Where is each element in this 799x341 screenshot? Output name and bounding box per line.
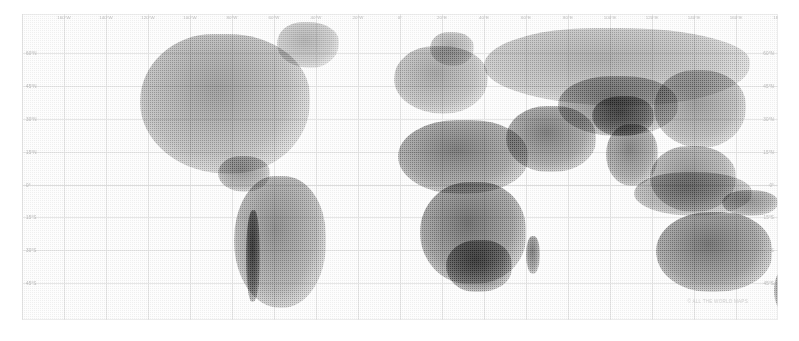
longitude-label: 160°E [730,15,743,20]
longitude-label: 40°E [479,15,489,20]
landmass-madagascar [526,236,540,274]
latitude-label: 60°N [26,51,37,56]
landmass-fill [246,210,260,302]
latitude-label: 60°N [763,51,774,56]
latitude-label: 0° [769,182,774,187]
latitude-label: 30°N [763,116,774,121]
latitude-label: 30°S [764,248,774,253]
landmass-fill [656,212,772,292]
longitude-label: 20°E [437,15,447,20]
world-map[interactable]: 160°W140°W120°W100°W80°W60°W40°W20°W0°20… [22,14,778,320]
latitude-label: 15°S [26,215,36,220]
landmass-scandinavia [430,32,474,66]
longitude-label: 40°W [310,15,321,20]
landmass-fill [446,240,512,292]
landmass-andes-ridge [246,210,260,302]
copyright-watermark: © ALL THE WORLD MAPS [688,299,748,304]
landmass-australia [656,212,772,292]
landmass-fill [654,70,746,148]
latitude-label: 15°N [763,149,774,154]
latitude-label: 45°S [26,280,36,285]
latitude-label: 45°N [763,84,774,89]
longitude-label: 60°W [268,15,279,20]
longitude-label: 100°E [604,15,617,20]
latitude-labels-left: 60°N45°N30°N15°N0°15°S30°S45°S [22,14,44,320]
longitude-label: 160°W [57,15,71,20]
landmass-layer [22,14,778,320]
longitude-label: 120°E [646,15,659,20]
latitude-label: 30°S [26,248,36,253]
landmass-southern-africa [446,240,512,292]
latitude-label: 30°N [26,116,37,121]
longitude-label: 0° [398,15,402,20]
longitude-label: 80°E [563,15,573,20]
longitude-label: 80°W [226,15,237,20]
latitude-label: 15°N [26,149,37,154]
latitude-labels-right: 60°N45°N30°N15°N0°15°S30°S45°S [756,14,778,320]
longitude-label: 140°E [688,15,701,20]
landmass-east-asia [654,70,746,148]
longitude-label: 20°W [352,15,363,20]
latitude-label: 15°S [764,215,774,220]
landmass-greenland [277,22,339,68]
landmass-fill [277,22,339,68]
landmass-fill [430,32,474,66]
latitude-label: 0° [26,182,31,187]
longitude-label: 120°W [141,15,155,20]
longitude-label-row: 160°W140°W120°W100°W80°W60°W40°W20°W0°20… [22,15,778,23]
latitude-label: 45°S [764,280,774,285]
longitude-label: 100°W [183,15,197,20]
longitude-label: 60°E [521,15,531,20]
longitude-label: 140°W [99,15,113,20]
landmass-fill [526,236,540,274]
screenshot-root: 160°W140°W120°W100°W80°W60°W40°W20°W0°20… [0,0,799,341]
latitude-label: 45°N [26,84,37,89]
